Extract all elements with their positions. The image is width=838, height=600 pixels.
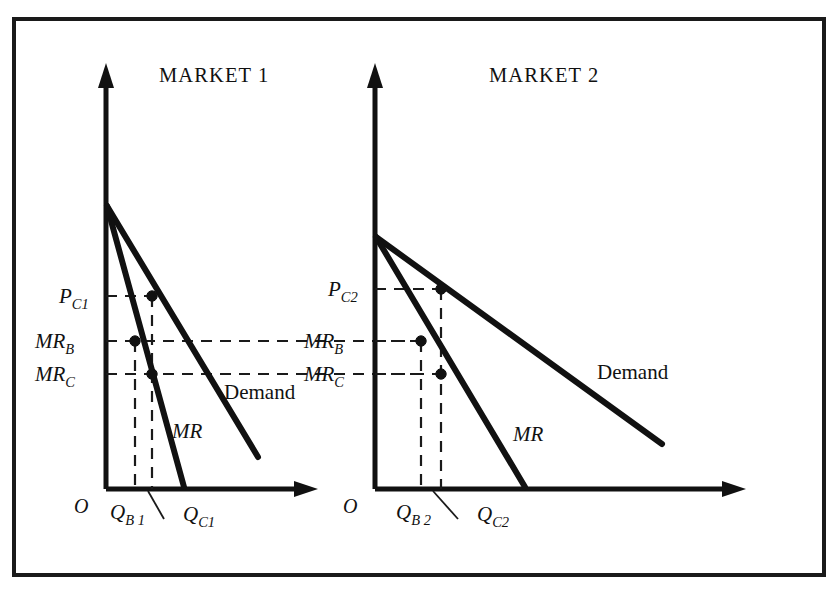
market-1-label-mrb-base: MR: [34, 329, 65, 353]
market-2-label-qc2-base: Q: [477, 502, 492, 526]
market-1-point-mrb: [130, 336, 140, 346]
market-1-mr-curve: [107, 206, 184, 487]
market-2-label-qc2: QC2: [477, 502, 509, 530]
market-1-label-pc1-base: P: [58, 284, 72, 308]
market-1-label-qb1-sub: B 1: [125, 512, 145, 528]
market-1-label-qb1-base: Q: [110, 500, 125, 524]
market-2-price-axis-arrow-icon: [367, 63, 383, 88]
market-2-label-qb2: QB 2: [396, 500, 431, 528]
market-1-label-mrb-sub: B: [65, 341, 74, 357]
market-2-label-pc2: PC2: [327, 277, 358, 305]
market-1-label-mrc: MRC: [34, 362, 75, 390]
market-1-demand-label: Demand: [224, 380, 296, 404]
market-2-label-pc2-base: P: [327, 277, 341, 301]
market-2-quantity-axis-arrow-icon: [722, 481, 746, 497]
market-1-price-axis-arrow-icon: [98, 63, 114, 88]
market-1-point-pc1: [147, 291, 157, 301]
market-2-label-mrc-sub: C: [334, 374, 344, 390]
market-1-label-qc1: QC1: [183, 502, 215, 530]
market-2-label-mrc-base: MR: [303, 362, 334, 386]
market-2-mr-label: MR: [512, 422, 543, 446]
market-1-qc1-leader: [148, 491, 164, 519]
market-1-label-qc1-sub: C1: [198, 514, 215, 530]
market-2-point-mrb: [416, 336, 426, 346]
market-1-origin-label: O: [74, 495, 88, 517]
figure-canvas: MARKET 1 PC1 MRB MRC O QB 1 QC1 Demand: [0, 0, 838, 600]
market-1-label-qc1-base: Q: [183, 502, 198, 526]
market-1-title: MARKET 1: [159, 64, 269, 86]
market-1-point-mrc: [147, 369, 157, 379]
market-2-label-mrb-base: MR: [303, 329, 334, 353]
market-2-qc2-leader: [433, 491, 458, 519]
market-1-label-pc1: PC1: [58, 284, 89, 312]
market-2-point-pc2: [436, 284, 446, 294]
market-2-demand-label: Demand: [597, 360, 669, 384]
market-1-label-mrb: MRB: [34, 329, 74, 357]
market-1-label-qb1: QB 1: [110, 500, 145, 528]
market-2-label-qc2-sub: C2: [492, 514, 509, 530]
market-2-panel: MARKET 2 PC2 MRB MRC O QB 2 QC2 Demand: [303, 63, 746, 530]
market-1-panel: MARKET 1 PC1 MRB MRC O QB 1 QC1 Demand: [34, 63, 418, 530]
market-2-label-pc2-sub: C2: [341, 289, 358, 305]
market-1-quantity-axis-arrow-icon: [294, 481, 318, 497]
figure-root: MARKET 1 PC1 MRB MRC O QB 1 QC1 Demand: [0, 0, 838, 600]
market-1-mr-label: MR: [171, 419, 202, 443]
market-2-title: MARKET 2: [489, 64, 599, 86]
market-1-label-mrc-sub: C: [65, 374, 75, 390]
market-2-label-mrb: MRB: [303, 329, 343, 357]
market-2-label-mrb-sub: B: [334, 341, 343, 357]
market-2-origin-label: O: [343, 495, 357, 517]
market-2-mr-curve: [376, 237, 525, 487]
market-2-label-mrc: MRC: [303, 362, 344, 390]
market-1-label-mrc-base: MR: [34, 362, 65, 386]
market-2-label-qb2-base: Q: [396, 500, 411, 524]
market-2-point-mrc: [436, 369, 446, 379]
market-1-label-pc1-sub: C1: [72, 296, 89, 312]
market-2-label-qb2-sub: B 2: [411, 512, 431, 528]
